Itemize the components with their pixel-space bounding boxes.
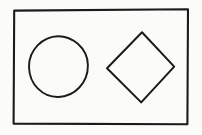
- paper-background: [0, 0, 202, 135]
- figure-canvas: Hand-drawn figure: circle and diamond in…: [0, 0, 202, 135]
- drawing-surface: [0, 0, 202, 135]
